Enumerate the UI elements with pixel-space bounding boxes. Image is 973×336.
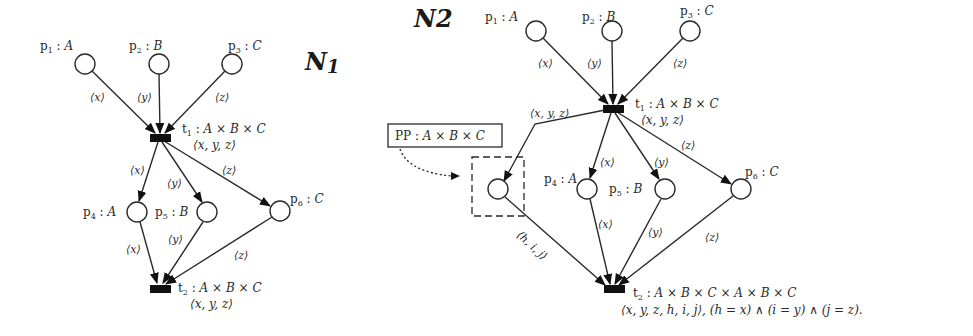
place-label-p5: p5 : B [609,182,642,198]
arc-label: ⟨x⟩ [130,164,145,177]
place-p2 [149,54,169,74]
transition-label-t2: t2 : A × B × C [178,281,262,297]
arc-label: ⟨y⟩ [137,91,152,104]
arc-p2-t1 [612,41,613,104]
arc-label: ⟨y⟩ [648,226,663,239]
transition-label-t2: t2 : A × B × C × A × B × C [633,286,796,302]
net-label-n1: N1 [304,47,339,77]
transition-t1 [150,134,171,142]
place-label-p1: p1 : A [485,10,518,26]
place-label-p2: p2 : B [129,39,162,55]
callout-label: PP : A × B × C [395,129,485,143]
arc-label: ⟨h, i, j⟩ [514,229,550,263]
arc-p5-t2 [615,199,661,284]
arc-label: ⟨y⟩ [168,233,183,246]
arc-label: ⟨z⟩ [705,231,719,244]
place-p2 [602,21,622,41]
place-p1 [526,21,546,41]
net-n2: N2 ⟨x⟩ ⟨y⟩ ⟨z⟩ ⟨x, y, z⟩ ⟨x⟩ ⟨y⟩ ⟨z⟩ ⟨h,… [388,4,863,317]
arc-label: ⟨x⟩ [90,91,105,104]
place-label-p2: p2 : B [582,10,615,26]
arc-p4-t2 [140,222,157,283]
net-n1: N1 ⟨x⟩ ⟨y⟩ ⟨z⟩ ⟨x⟩ ⟨y⟩ ⟨z⟩ ⟨x⟩ ⟨y⟩ ⟨z⟩ p… [40,39,339,311]
arc-label: ⟨y⟩ [654,156,669,169]
transition-t1 [603,105,624,113]
place-p6 [270,201,290,221]
arc-label: ⟨z⟩ [234,249,248,262]
arc-label: ⟨x⟩ [598,218,613,231]
arc-label: ⟨z⟩ [222,164,236,177]
arc-label: ⟨x, y, z⟩ [530,107,569,120]
arc-label: ⟨z⟩ [215,91,229,104]
transition-label-t1: t1 : A × B × C [182,122,266,138]
place-p3 [680,21,700,41]
callout-arrowhead-icon [451,172,460,180]
place-label-p3: p3 : C [680,4,714,20]
arc-label: ⟨z⟩ [681,139,695,152]
arc-label: ⟨x⟩ [538,57,553,70]
place-label-p5: p5 : B [155,205,188,221]
transition-binding-t2: ⟨x, y, z, h, i, j⟩, (h = x) ∧ (i = y) ∧ … [621,303,863,317]
place-p6 [731,179,751,199]
arc-p3-t1 [618,38,683,104]
place-label-p1: p1 : A [40,39,73,55]
callout-dotted-arrow [400,149,452,176]
place-p4 [577,179,597,199]
transition-binding-t1: ⟨x, y, z⟩ [193,138,236,152]
net-label-n2: N2 [413,4,453,33]
arc-p1-t1 [543,38,608,104]
arc-p4-t2 [590,199,610,284]
petri-net-diagram: N1 ⟨x⟩ ⟨y⟩ ⟨z⟩ ⟨x⟩ ⟨y⟩ ⟨z⟩ ⟨x⟩ ⟨y⟩ ⟨z⟩ p… [0,0,973,336]
place-p5 [655,179,675,199]
arc-p6-t2 [166,217,272,284]
place-p5 [197,202,217,222]
transition-t2 [150,285,171,293]
arc-label: ⟨y⟩ [167,177,182,190]
place-label-p3: p3 : C [228,39,262,55]
transition-label-t1: t1 : A × B × C [635,97,719,113]
arc-label: ⟨y⟩ [587,57,602,70]
arc-t1-pp [504,110,605,181]
place-pp [488,179,508,199]
arc-label: ⟨z⟩ [673,57,687,70]
arc-label: ⟨x⟩ [600,156,615,169]
place-label-p6: p6 : C [745,165,779,181]
place-p4 [127,202,147,222]
place-label-p6: p6 : C [290,192,324,208]
transition-t2 [604,285,625,293]
transition-binding-t2: ⟨x, y, z⟩ [190,297,233,311]
arc-p2-t1 [159,74,160,133]
place-p3 [222,54,242,74]
place-label-p4: p4 : A [83,205,116,221]
arc-label: ⟨x⟩ [126,243,141,256]
place-p1 [75,54,95,74]
place-label-p4: p4 : A [544,172,577,188]
transition-binding-t1: ⟨x, y, z⟩ [641,113,684,127]
